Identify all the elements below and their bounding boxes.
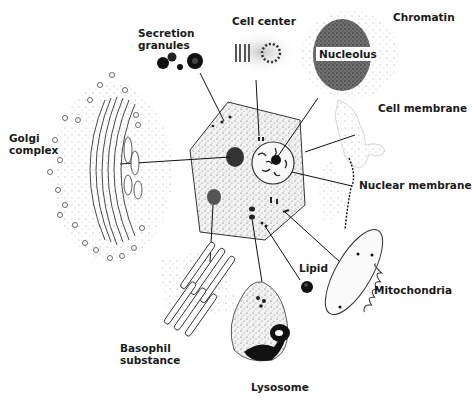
label-line: complex: [9, 144, 58, 156]
label-nucleolus: Nucleolus: [319, 48, 377, 60]
nuclear-membrane-illustration: [318, 158, 353, 230]
cell-center-illustration: [226, 30, 298, 74]
nucleolus-dot: [271, 155, 281, 165]
secretion-granules-illustration: [157, 53, 203, 71]
central-cell: [190, 102, 305, 240]
label-nuclear-membrane: Nuclear membrane: [359, 179, 472, 191]
label-line: Secretion: [138, 27, 195, 39]
label-line: granules: [138, 39, 195, 51]
lysosome-illustration: [231, 282, 290, 361]
label-chromatin: Chromatin: [393, 11, 455, 23]
label-cell-membrane: Cell membrane: [378, 102, 467, 114]
basophil-substance-illustration: [160, 241, 238, 337]
label-mitochondria: Mitochondria: [374, 284, 452, 296]
label-lipid: Lipid: [299, 262, 328, 274]
label-lysosome: Lysosome: [251, 381, 309, 393]
golgi-complex-illustration: [48, 73, 173, 263]
label-line: Basophil: [120, 342, 180, 354]
label-cell-center: Cell center: [232, 15, 296, 27]
label-golgi-complex: Golgi complex: [9, 132, 58, 156]
label-line: substance: [120, 354, 180, 366]
label-secretion-granules: Secretion granules: [138, 27, 195, 51]
label-basophil-substance: Basophil substance: [120, 342, 180, 366]
lipid-illustration: [301, 281, 313, 293]
label-line: Golgi: [9, 132, 58, 144]
